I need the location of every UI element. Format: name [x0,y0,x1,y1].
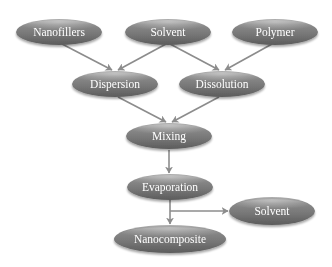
node-label-mixing: Mixing [152,130,186,143]
node-label-evaporation: Evaporation [142,181,198,194]
node-solvent-input: Solvent [125,19,211,45]
node-solvent-output: Solvent [229,197,315,225]
node-label-solvent-output: Solvent [254,205,290,217]
node-evaporation: Evaporation [127,174,213,200]
edge-solvent-to-dispersion [118,44,166,70]
node-polymer: Polymer [232,19,318,45]
node-label-nanofillers: Nanofillers [33,26,85,38]
node-label-dispersion: Dispersion [90,78,140,91]
edge-dispersion-to-mixing [118,97,166,122]
edge-dissolution-to-mixing [172,97,219,122]
node-nanofillers: Nanofillers [16,19,102,45]
edge-solvent-to-dissolution [170,44,219,70]
node-dissolution: Dissolution [179,71,265,97]
edge-polymer-to-dissolution [225,44,272,70]
node-mixing: Mixing [126,123,212,149]
node-nanocomposite: Nanocomposite [114,225,226,253]
edge-nanofillers-to-dispersion [62,44,112,70]
process-flow-diagram: Nanofillers Solvent Polymer Dispersion D… [0,0,332,267]
node-label-nanocomposite: Nanocomposite [134,233,206,246]
node-label-solvent-input: Solvent [150,26,186,38]
node-dispersion: Dispersion [72,71,158,97]
node-label-dissolution: Dissolution [195,78,248,90]
node-label-polymer: Polymer [256,26,295,39]
